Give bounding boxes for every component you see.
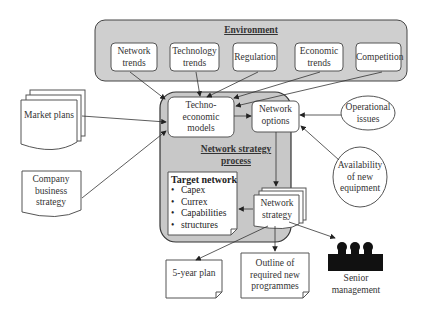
senior-management-icon [328, 242, 383, 271]
env-label-regulation: Regulation [233, 52, 277, 64]
target-network-block: Target network Capex Currex Capabilities… [171, 174, 237, 231]
process-title: Network strategy process [196, 144, 276, 167]
techno-economic-label: Techno-economic models [170, 100, 232, 135]
network-options-label: Network options [254, 104, 297, 127]
env-label-economic-trends: Economic trends [295, 46, 343, 69]
env-label-technology-trends: Technology trends [170, 46, 219, 69]
market-plans-label: Market plans [22, 110, 76, 122]
target-network-title: Target network [171, 174, 237, 185]
env-label-competition: Competition [356, 52, 401, 64]
target-network-item: Currex [171, 197, 237, 209]
network-strategy-label: Network strategy [255, 198, 299, 221]
target-network-item: Capex [171, 185, 237, 197]
target-network-item: structures [171, 220, 237, 232]
target-network-item: Capabilities [171, 208, 237, 220]
senior-management-label: Senior management [325, 273, 387, 296]
env-label-network-trends: Network trends [111, 46, 157, 69]
availability-label: Availability of new equipment [335, 160, 385, 195]
market-plans-doc [21, 100, 77, 150]
outline-programmes-label: Outline of required new programmes [242, 258, 308, 293]
operational-issues-label: Operational issues [343, 102, 393, 125]
company-business-strategy-label: Company business strategy [22, 174, 80, 209]
environment-title: Environment [95, 25, 407, 37]
five-year-plan-label: 5-year plan [168, 268, 220, 280]
